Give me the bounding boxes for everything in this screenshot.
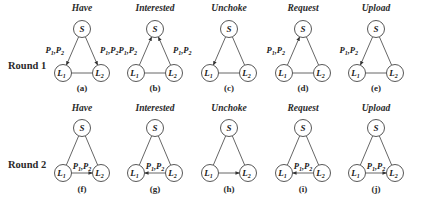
node-l1: L1 <box>349 65 366 82</box>
svg-text:S: S <box>152 24 157 34</box>
panel-caption: (a) <box>77 83 88 93</box>
panel-e: UploadP1,P2SL1L2(e) <box>339 3 403 93</box>
node-s: S <box>368 120 385 137</box>
node-l2: L2 <box>387 165 404 182</box>
panel-title: Interested <box>134 3 174 13</box>
node-l1: L1 <box>55 65 72 82</box>
node-s: S <box>368 21 385 38</box>
panel-title: Have <box>71 3 93 13</box>
message-arrow <box>213 37 225 65</box>
message-arrow <box>360 37 372 65</box>
panel-caption: (f) <box>78 184 87 194</box>
node-l1: L1 <box>128 65 145 82</box>
message-arrow <box>139 37 151 65</box>
panel-title: Request <box>286 3 319 13</box>
node-s: S <box>74 120 91 137</box>
link-line <box>232 136 244 165</box>
piece-label: P1,P2 <box>45 45 64 56</box>
node-l2: L2 <box>240 65 257 82</box>
piece-label: P1,P2 <box>118 45 137 56</box>
panel-j: UploadP1,P2SL1L2(j) <box>349 103 404 194</box>
node-l1: L1 <box>128 165 145 182</box>
panel-a: HaveP1,P2P1,P2SL1L2(a) <box>45 3 118 93</box>
node-l1: L1 <box>202 65 219 82</box>
node-l2: L2 <box>93 65 110 82</box>
node-l1: L1 <box>55 165 72 182</box>
node-s: S <box>74 21 91 38</box>
diagram-canvas: Round 1 Round 2 HaveP1,P2P1,P2SL1L2(a)In… <box>0 0 423 206</box>
node-l2: L2 <box>314 165 331 182</box>
link-line <box>379 37 391 65</box>
node-l1: L1 <box>276 65 293 82</box>
piece-label: P1,P2 <box>367 161 386 172</box>
panel-title: Upload <box>362 3 391 13</box>
panel-h: UnchokeSL1L2(h) <box>202 103 257 194</box>
panel-title: Have <box>71 103 93 113</box>
panel-title: Interested <box>134 103 174 113</box>
node-s: S <box>295 21 312 38</box>
node-l2: L2 <box>166 65 183 82</box>
panel-title: Unchoke <box>211 3 247 13</box>
panel-title: Unchoke <box>211 103 247 113</box>
link-line <box>232 37 244 65</box>
panel-f: HaveP1,P2SL1L2(f) <box>55 103 110 194</box>
panels: HaveP1,P2P1,P2SL1L2(a)InterestedP1,P2P1,… <box>45 3 403 194</box>
node-l1: L1 <box>276 165 293 182</box>
piece-label: P1,P2 <box>73 161 92 172</box>
link-line <box>306 37 318 65</box>
svg-text:S: S <box>373 123 378 133</box>
panel-caption: (c) <box>224 83 234 93</box>
node-l2: L2 <box>240 165 257 182</box>
svg-text:S: S <box>300 123 305 133</box>
node-l2: L2 <box>387 65 404 82</box>
node-l1: L1 <box>202 165 219 182</box>
panel-d: RequestP1,P2SL1L2(d) <box>266 3 330 93</box>
node-s: S <box>295 120 312 137</box>
node-l1: L1 <box>349 165 366 182</box>
panel-g: InterestedP1,P2SL1L2(g) <box>128 103 183 194</box>
piece-label: P1,P2 <box>294 161 313 172</box>
node-l2: L2 <box>93 165 110 182</box>
panel-caption: (g) <box>150 184 161 194</box>
message-arrow <box>66 37 78 65</box>
piece-label: P1,P2 <box>339 45 358 56</box>
panel-b: InterestedP1,P2P1,P2SL1L2(b) <box>118 3 191 93</box>
svg-text:S: S <box>373 24 378 34</box>
panel-caption: (i) <box>299 184 308 194</box>
panel-caption: (h) <box>224 184 235 194</box>
svg-text:S: S <box>226 24 231 34</box>
node-l2: L2 <box>314 65 331 82</box>
node-s: S <box>147 120 164 137</box>
panel-caption: (j) <box>372 184 381 194</box>
piece-label: P1,P2 <box>100 45 119 56</box>
panel-c: UnchokeSL1L2(c) <box>202 3 257 93</box>
panel-caption: (e) <box>371 83 381 93</box>
message-arrow <box>287 37 299 65</box>
node-s: S <box>221 120 238 137</box>
node-s: S <box>147 21 164 38</box>
node-l2: L2 <box>166 165 183 182</box>
panel-title: Upload <box>362 103 391 113</box>
round-1-label: Round 1 <box>8 60 46 71</box>
svg-text:S: S <box>79 123 84 133</box>
svg-text:S: S <box>226 123 231 133</box>
link-line <box>213 136 225 165</box>
panel-caption: (b) <box>150 83 161 93</box>
panel-caption: (d) <box>298 83 309 93</box>
panel-title: Request <box>286 103 319 113</box>
bittorrent-protocol-diagram: Round 1 Round 2 HaveP1,P2P1,P2SL1L2(a)In… <box>0 0 423 206</box>
piece-label: P1,P2 <box>266 45 285 56</box>
message-arrow <box>85 37 97 65</box>
panel-i: RequestP1,P2SL1L2(i) <box>276 103 331 194</box>
svg-text:S: S <box>79 24 84 34</box>
piece-label: P1,P2 <box>173 45 192 56</box>
message-arrow <box>158 37 170 65</box>
node-s: S <box>221 21 238 38</box>
svg-text:S: S <box>152 123 157 133</box>
svg-text:S: S <box>300 24 305 34</box>
piece-label: P1,P2 <box>146 161 165 172</box>
round-2-label: Round 2 <box>8 159 46 170</box>
